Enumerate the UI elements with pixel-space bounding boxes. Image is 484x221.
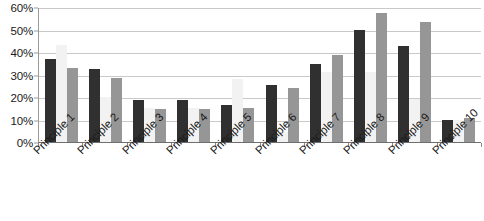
bar [332,55,343,142]
x-axis: Principle 1Principle 2Principle 3Princip… [38,148,481,221]
y-axis-tick-label: 10% [11,115,33,127]
x-axis-tick-mark [481,143,482,147]
y-axis: 0%10%20%30%40%50%60% [0,8,38,143]
bar [67,68,78,142]
y-axis-tick-label: 40% [11,47,33,59]
bar-chart: 0%10%20%30%40%50%60% Principle 1Principl… [0,0,484,221]
bar [111,78,122,142]
y-axis-tick-label: 30% [11,70,33,82]
y-axis-tick-label: 60% [11,2,33,14]
y-axis-tick-label: 50% [11,25,33,37]
y-axis-tick-label: 20% [11,92,33,104]
